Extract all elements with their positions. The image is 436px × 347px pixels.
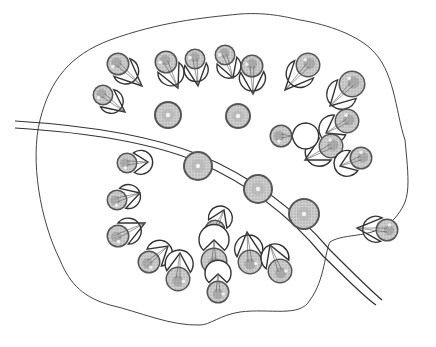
pear-cell — [184, 49, 208, 87]
pear-cell — [261, 244, 293, 284]
pear-cell — [93, 85, 126, 114]
pear-cell — [107, 185, 141, 211]
round-cell — [183, 151, 213, 181]
round-cell — [243, 174, 273, 204]
pear-cell — [235, 232, 263, 275]
round-cells — [154, 101, 320, 230]
round-cell — [225, 103, 251, 129]
cell-illustration — [0, 0, 436, 347]
pear-cell — [165, 250, 193, 291]
pear-cell — [239, 55, 265, 95]
pear-cell — [107, 53, 143, 87]
pear-cell — [285, 53, 321, 91]
pear-cell — [357, 216, 399, 242]
pear-cell — [327, 71, 366, 110]
round-cell — [154, 101, 182, 129]
round-cell — [288, 198, 320, 230]
pear-cell — [107, 218, 146, 247]
pear-cell — [215, 45, 241, 79]
pear-cell — [155, 51, 184, 89]
pear-cell — [205, 260, 231, 303]
pear-cell — [117, 150, 153, 174]
pear-cells — [93, 45, 399, 304]
pear-cell — [270, 123, 319, 149]
